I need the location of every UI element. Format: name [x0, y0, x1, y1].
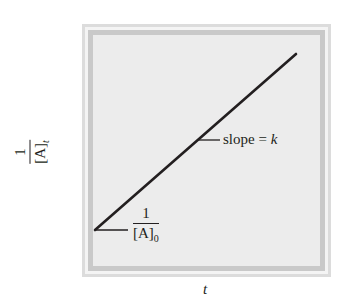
intercept-subscript: 0 — [154, 233, 159, 244]
chart-svg — [0, 0, 342, 303]
intercept-base: [A] — [133, 225, 154, 241]
y-axis-subscript: t — [40, 140, 51, 143]
slope-k: k — [271, 131, 278, 147]
y-axis-denominator: [A]t — [31, 140, 48, 164]
y-axis-base: [A] — [32, 143, 48, 164]
intercept-denominator: [A]0 — [133, 224, 159, 241]
x-axis-label: t — [203, 281, 207, 298]
y-axis-label: 1 [A]t — [13, 140, 48, 164]
slope-annotation: slope = k — [223, 131, 277, 148]
y-axis-numerator: 1 — [13, 146, 30, 158]
intercept-numerator: 1 — [140, 206, 152, 223]
intercept-annotation: 1 [A]0 — [133, 206, 159, 241]
y-axis-fraction: 1 [A]t — [13, 140, 48, 164]
slope-prefix: slope = — [223, 131, 271, 147]
